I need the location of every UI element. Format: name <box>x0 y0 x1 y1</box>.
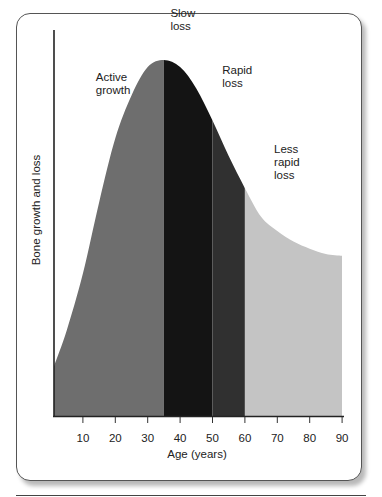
annotation-slow-loss: Slowloss <box>170 7 196 32</box>
region-less-rapid-loss <box>245 0 342 416</box>
x-tick-label: 30 <box>141 432 154 444</box>
annotation-less-rapid-loss: Lessrapidloss <box>274 143 300 181</box>
x-tick-label: 40 <box>174 432 187 444</box>
x-tick-label: 50 <box>206 432 219 444</box>
region-slow-loss <box>164 0 213 416</box>
x-tick-label: 90 <box>336 432 349 444</box>
x-tick-label: 20 <box>109 432 122 444</box>
x-tick-label: 60 <box>239 432 252 444</box>
annotation-active-growth: Activegrowth <box>96 71 131 96</box>
annotation-rapid-loss: Rapidloss <box>222 64 252 89</box>
region-active-growth <box>54 0 164 416</box>
x-axis-label: Age (years) <box>167 448 227 460</box>
bone-growth-chart: 102030405060708090 ActivegrowthSlowlossR… <box>0 0 382 497</box>
x-tick-label: 70 <box>271 432 284 444</box>
x-tick-label: 80 <box>303 432 316 444</box>
y-axis-label: Bone growth and loss <box>30 154 42 265</box>
x-tick-label: 10 <box>77 432 90 444</box>
region-rapid-loss <box>213 0 245 416</box>
